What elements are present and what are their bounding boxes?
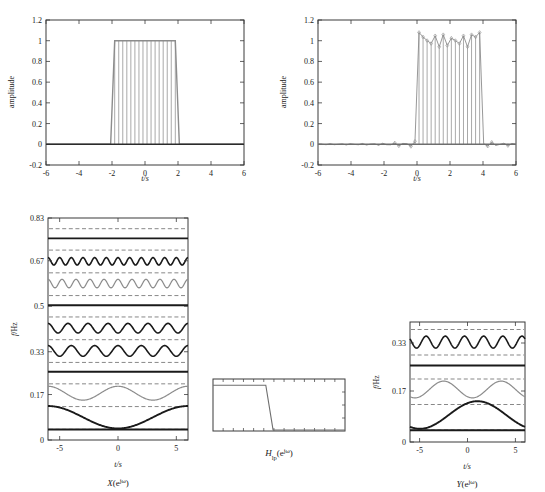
- tick-label: 2: [448, 169, 452, 178]
- tick-label: -2: [109, 169, 116, 178]
- x-axis-label: t/s: [141, 174, 149, 183]
- tick-label: -0.2: [29, 161, 42, 170]
- tick-label: 0: [38, 140, 42, 149]
- tick-label: 0: [466, 446, 470, 455]
- tick-label: 1.2: [32, 16, 42, 25]
- tick-label: 0.6: [32, 78, 42, 87]
- y-tick-labels: 00.170.330.50.670.83: [30, 214, 44, 445]
- y-tick-labels: -0.200.20.40.60.811.2: [301, 16, 314, 170]
- tick-label: 4: [209, 169, 213, 178]
- tick-label: -4: [76, 169, 83, 178]
- tick-label: 1: [310, 37, 314, 46]
- x-axis-label: t/s: [413, 174, 421, 183]
- tick-label: 5: [513, 446, 517, 455]
- tick-label: 0: [310, 140, 314, 149]
- panel-lowpass-filter: Hlp(ejω): [210, 370, 360, 492]
- tick-label: 0.83: [30, 214, 44, 223]
- x-tick-labels: -505: [416, 446, 517, 455]
- tick-label: 4: [481, 169, 485, 178]
- tick-label: 0: [40, 436, 44, 445]
- tick-label: 0.33: [392, 339, 406, 348]
- tick-label: -5: [56, 444, 63, 453]
- tick-label: 0.17: [30, 391, 44, 400]
- tick-label: -0.2: [301, 161, 314, 170]
- tick-label: 0.4: [304, 99, 314, 108]
- panel-output-signal: -6-4-20246 -0.200.20.40.60.811.2 t/s amp…: [272, 0, 545, 200]
- panel-caption: Y(ejω): [456, 478, 477, 490]
- tick-label: 1.2: [304, 16, 314, 25]
- panel-caption: X(ejω): [106, 477, 129, 489]
- tick-label: 0.8: [32, 57, 42, 66]
- tick-label: 6: [514, 169, 518, 178]
- tick-label: 0.33: [30, 348, 44, 357]
- y-axis-label: amplitude: [279, 76, 288, 108]
- y-tick-labels: 00.170.33: [392, 339, 406, 447]
- tick-label: 6: [242, 169, 246, 178]
- x-axis-label: t/s: [463, 462, 471, 471]
- input-spectrum-svg: 00.170.330.50.670.83 -505 f/Hz t/s X(ejω…: [0, 200, 210, 492]
- output-spectrum-svg: 00.170.33 -505 f/Hz t/s Y(ejω): [360, 310, 545, 492]
- panel-output-spectrum: 00.170.33 -505 f/Hz t/s Y(ejω): [360, 310, 545, 492]
- tick-label: -6: [43, 169, 50, 178]
- tick-label: 0: [402, 438, 406, 447]
- tick-label: -2: [381, 169, 388, 178]
- y-axis-label: f/Hz: [10, 322, 19, 336]
- tick-label: 0.17: [392, 387, 406, 396]
- panel-input-signal: -6-4-20246 -0.200.20.40.60.811.2 t/s amp…: [0, 0, 272, 200]
- x-axis-label: t/s: [114, 460, 122, 469]
- plot-frame: [46, 20, 244, 165]
- output-signal-svg: -6-4-20246 -0.200.20.40.60.811.2 t/s amp…: [272, 0, 545, 200]
- lowpass-filter-svg: Hlp(ejω): [210, 370, 360, 492]
- tick-label: -5: [416, 446, 423, 455]
- y-axis-label: amplitude: [7, 76, 16, 108]
- tick-label: 0.67: [30, 257, 44, 266]
- y-axis-label: f/Hz: [372, 375, 381, 389]
- y-tick-labels: -0.200.20.40.60.811.2: [29, 16, 42, 170]
- tick-label: -4: [348, 169, 355, 178]
- plot-frame: [213, 379, 345, 431]
- input-signal-svg: -6-4-20246 -0.200.20.40.60.811.2 t/s amp…: [0, 0, 272, 200]
- tick-label: 5: [174, 444, 178, 453]
- panel-input-spectrum: 00.170.330.50.670.83 -505 f/Hz t/s X(ejω…: [0, 200, 210, 492]
- x-tick-labels: -505: [56, 444, 178, 453]
- tick-label: 1: [38, 37, 42, 46]
- tick-label: -6: [315, 169, 322, 178]
- tick-label: 0.8: [304, 57, 314, 66]
- tick-label: 0: [116, 444, 120, 453]
- tick-label: 0.5: [34, 302, 44, 311]
- tick-label: 0.6: [304, 78, 314, 87]
- tick-label: 0.2: [304, 120, 314, 129]
- tick-label: 0.4: [32, 99, 42, 108]
- tick-label: 2: [176, 169, 180, 178]
- panel-caption: Hlp(ejω): [264, 447, 293, 461]
- tick-label: 0.2: [32, 120, 42, 129]
